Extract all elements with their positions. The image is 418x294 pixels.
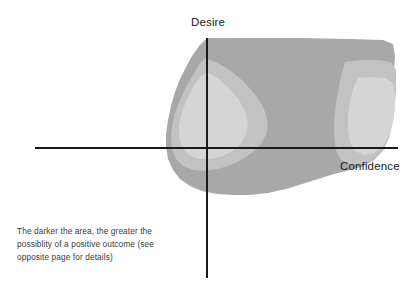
caption-line: opposite page for details) (17, 251, 207, 264)
diagram-canvas: Desire Confidence The darker the area, t… (0, 0, 418, 294)
confidence-axis-label: Confidence (340, 160, 400, 172)
caption-line: possiblity of a positive outcome (see (17, 238, 207, 251)
caption-block: The darker the area, the greater the pos… (17, 225, 207, 265)
desire-axis-label: Desire (191, 16, 225, 28)
caption-line: The darker the area, the greater the (17, 225, 207, 238)
inner-light-core-right-shape (348, 77, 395, 155)
